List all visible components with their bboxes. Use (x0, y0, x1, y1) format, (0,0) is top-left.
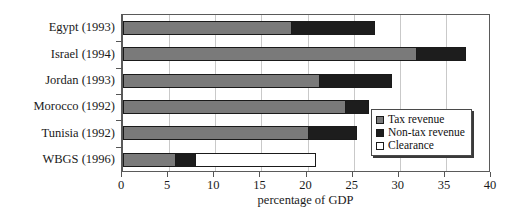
legend-swatch-nontax-icon (376, 129, 384, 137)
bar-row (123, 41, 489, 67)
x-axis: 0510152025303540 (121, 172, 490, 194)
bar-segment-tax (123, 21, 291, 35)
bar-segment-tax (123, 126, 308, 140)
x-tick (398, 172, 399, 177)
x-tick (121, 172, 122, 177)
y-tick (116, 68, 123, 69)
x-axis-title: percentage of GDP (121, 193, 490, 208)
x-tick (306, 172, 307, 177)
chart-screenshot: Egypt (1993)Israel (1994)Jordan (1993)Mo… (0, 0, 506, 215)
stacked-bar (123, 100, 369, 114)
bar-segment-clearance (195, 153, 316, 167)
stacked-bar (123, 126, 357, 140)
x-tick-label: 40 (484, 178, 497, 193)
y-tick (116, 120, 123, 121)
y-axis-label: Israel (1994) (9, 46, 121, 61)
bar-segment-tax (123, 47, 416, 61)
x-tick-label: 20 (299, 178, 312, 193)
x-tick (444, 172, 445, 177)
x-tick-label: 0 (118, 178, 124, 193)
x-tick (167, 172, 168, 177)
y-axis-label: WBGS (1996) (9, 151, 121, 166)
x-tick (213, 172, 214, 177)
x-tick-label: 25 (345, 178, 358, 193)
bar-segment-nontax (416, 47, 466, 61)
stacked-bar (123, 153, 316, 167)
legend-swatch-clearance-icon (376, 142, 384, 150)
y-axis-labels: Egypt (1993)Israel (1994)Jordan (1993)Mo… (0, 14, 121, 172)
legend-label: Non-tax revenue (388, 126, 465, 139)
bar-segment-nontax (308, 126, 358, 140)
legend-label: Clearance (388, 139, 434, 152)
bar-segment-nontax (175, 153, 195, 167)
y-axis-label: Morocco (1992) (9, 99, 121, 114)
y-axis-label: Tunisia (1992) (9, 125, 121, 140)
legend-item[interactable]: Tax revenue (376, 113, 465, 126)
legend-swatch-tax-icon (376, 116, 384, 124)
bar-row (123, 15, 489, 41)
stacked-bar (123, 21, 375, 35)
x-tick-label: 15 (253, 178, 266, 193)
y-tick (116, 41, 123, 42)
y-tick (116, 94, 123, 95)
bar-segment-tax (123, 153, 175, 167)
x-tick-label: 5 (164, 178, 170, 193)
bar-segment-tax (123, 74, 319, 88)
legend-label: Tax revenue (388, 113, 444, 126)
y-tick (116, 147, 123, 148)
x-tick-label: 35 (438, 178, 451, 193)
x-tick (352, 172, 353, 177)
chart-legend: Tax revenueNon-tax revenueClearance (371, 109, 472, 156)
y-axis-label: Egypt (1993) (9, 20, 121, 35)
bar-segment-nontax (345, 100, 369, 114)
x-tick (259, 172, 260, 177)
legend-item[interactable]: Clearance (376, 139, 465, 152)
x-tick-label: 30 (392, 178, 405, 193)
stacked-bar (123, 47, 466, 61)
bar-segment-nontax (319, 74, 393, 88)
x-tick-label: 10 (207, 178, 220, 193)
bar-row (123, 68, 489, 94)
bar-segment-tax (123, 100, 345, 114)
bar-segment-nontax (291, 21, 375, 35)
legend-item[interactable]: Non-tax revenue (376, 126, 465, 139)
y-axis-label: Jordan (1993) (9, 72, 121, 87)
stacked-bar (123, 74, 392, 88)
x-tick (490, 172, 491, 177)
